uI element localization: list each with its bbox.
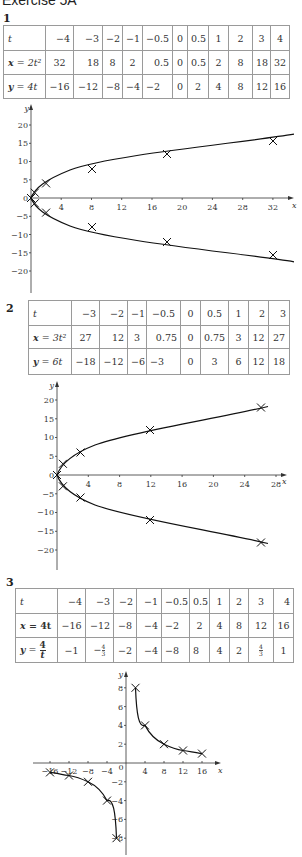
cell: 0 — [181, 301, 201, 326]
cell: 1 — [210, 589, 230, 614]
cell: 4 — [209, 75, 229, 99]
cell: 2 — [249, 301, 269, 326]
x-axis-label: x — [282, 477, 287, 486]
svg-text:8: 8 — [161, 767, 166, 776]
cell: 4 — [210, 638, 230, 663]
cell: −0.5 — [162, 589, 190, 614]
cell: 0 — [173, 75, 188, 99]
svg-text:−6: −6 — [111, 815, 123, 824]
cell: 12 — [100, 326, 128, 349]
cell: 0.5 — [143, 51, 173, 75]
table-row-x: x = 2t² 32 18 8 2 0.5 0 0.5 2 8 18 32 — [4, 51, 290, 75]
y-axis-label: y — [23, 104, 29, 113]
fraction-4-over-t: 4t — [40, 641, 46, 660]
cell: 0.75 — [201, 326, 229, 349]
cell: 16 — [271, 75, 290, 99]
cell: −8 — [162, 638, 190, 663]
values-table-1: t −4 −3 −2 −1 −0.5 0 0.5 1 2 3 4 x = 2t²… — [3, 25, 290, 99]
row-label: t — [29, 301, 72, 326]
cell: 27 — [72, 326, 100, 349]
cell: 1 — [229, 301, 249, 326]
cell: 8 — [230, 614, 249, 638]
cell: 12 — [249, 614, 274, 638]
svg-text:−10: −10 — [11, 231, 28, 240]
cell: 3 — [201, 349, 229, 375]
exercise-heading: Exercise 5A — [2, 0, 77, 8]
cell: 2 — [230, 638, 249, 663]
question-number-2: 2 — [6, 302, 14, 315]
cell: 16 — [274, 614, 294, 638]
y-tick-labels: 201510 50−5 −10−15−20 — [11, 121, 28, 276]
cell: 1 — [274, 638, 294, 663]
cell: 0 — [173, 26, 188, 51]
cell: 3 — [128, 326, 147, 349]
cell: 2 — [190, 614, 210, 638]
cell: 2 — [230, 589, 249, 614]
svg-text:6: 6 — [118, 703, 123, 712]
y-axis-arrow-icon — [124, 671, 128, 677]
x-axis-label: x — [292, 201, 297, 210]
table-row-y: y = 4t −16 −12 −8 −4 −2 0 2 4 8 12 16 — [4, 75, 290, 99]
cell: −8 — [103, 75, 123, 99]
cell: 3 — [269, 301, 290, 326]
svg-text:15: 15 — [18, 139, 28, 148]
cell-fraction: 43 — [249, 638, 274, 663]
chart-2: 201510 50−5 −10−15−20 4812 162024 28 y x — [0, 375, 302, 575]
cell: 0 — [181, 349, 201, 375]
cell: 6 — [229, 349, 249, 375]
cell: 3 — [229, 326, 249, 349]
values-table-3: t −4 −3 −2 −1 −0.5 0.5 1 2 3 4 x = 4t −1… — [15, 588, 294, 663]
cell: −2 — [162, 614, 190, 638]
row-label: x = 3t² — [29, 326, 72, 349]
cell: −3 — [147, 349, 181, 375]
hyperbola-branch-negative — [50, 772, 117, 838]
svg-text:−5: −5 — [42, 490, 54, 499]
x-tick-labels: −16−12−8 −40 481216 — [42, 763, 208, 776]
table-row-t: t −4 −3 −2 −1 −0.5 0.5 1 2 3 4 — [16, 589, 294, 614]
svg-text:2: 2 — [118, 740, 123, 749]
cell: 32 — [271, 51, 290, 75]
svg-text:28: 28 — [271, 480, 281, 489]
row-label: y = 4t — [16, 638, 58, 663]
cell: −3 — [72, 301, 100, 326]
svg-text:24: 24 — [207, 203, 217, 212]
table-row-y: y = 6t −18 −12 −6 −3 0 3 6 12 18 — [29, 349, 290, 375]
svg-text:16: 16 — [147, 203, 157, 212]
cell: 3 — [253, 26, 271, 51]
svg-text:10: 10 — [18, 157, 28, 166]
cell: 4 — [271, 26, 290, 51]
table-row-y: y = 4t −1 −43 −2 −4 −8 8 4 2 43 1 — [16, 638, 294, 663]
y-axis-label: y — [117, 670, 123, 679]
cell: −2 — [103, 26, 123, 51]
cell: 2 — [123, 51, 143, 75]
cell: 2 — [229, 26, 253, 51]
cell: −2 — [114, 589, 137, 614]
cell: 0.5 — [188, 26, 209, 51]
svg-text:15: 15 — [44, 415, 54, 424]
hyperbola-branch-positive — [136, 688, 203, 754]
svg-text:5: 5 — [23, 176, 28, 185]
cell: 12 — [249, 326, 269, 349]
svg-text:28: 28 — [238, 203, 248, 212]
svg-text:20: 20 — [18, 121, 28, 130]
row-label: x = 4t — [16, 614, 58, 638]
svg-text:−15: −15 — [11, 249, 28, 258]
svg-text:8: 8 — [89, 203, 94, 212]
cell: −0.5 — [147, 301, 181, 326]
cell: 1 — [209, 26, 229, 51]
cell: 18 — [253, 51, 271, 75]
cell: −16 — [46, 75, 74, 99]
svg-text:20: 20 — [208, 480, 218, 489]
cell: −4 — [123, 75, 143, 99]
cell: 18 — [269, 349, 290, 375]
cell: −3 — [86, 589, 114, 614]
cell: −12 — [100, 349, 128, 375]
svg-text:−8: −8 — [82, 767, 94, 776]
cell: −1 — [123, 26, 143, 51]
x-tick-labels: 4812 162024 2832 — [59, 203, 278, 212]
cell: 0.5 — [188, 51, 209, 75]
cell: 0.5 — [190, 589, 210, 614]
svg-text:0: 0 — [118, 763, 123, 772]
cell: 12 — [249, 349, 269, 375]
table-row-t: t −4 −3 −2 −1 −0.5 0 0.5 1 2 3 4 — [4, 26, 290, 51]
